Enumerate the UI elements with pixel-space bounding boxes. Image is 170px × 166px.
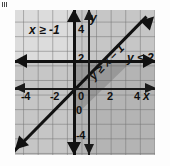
y-tick-neg2: 0 xyxy=(76,105,82,116)
origin-label: 0 xyxy=(78,91,84,102)
coordinate-plane: -4 -2 0 2 4 4 2 0 -4 x y x ≥ -1 y ≤ 2 y … xyxy=(15,10,155,155)
y-tick-neg4: -4 xyxy=(76,130,85,141)
y-tick-4: 4 xyxy=(78,24,84,35)
arrow-up-x-equals-neg1-icon xyxy=(67,10,81,22)
arrow-down-x-equals-neg1-icon xyxy=(67,142,81,155)
x-tick-neg2: -2 xyxy=(50,91,59,102)
y-tick-2: 2 xyxy=(78,53,84,64)
label-x-ge-neg1: x ≥ -1 xyxy=(29,24,60,36)
label-y-le-2: y ≤ 2 xyxy=(127,52,154,64)
x-tick-4: 4 xyxy=(134,91,140,102)
y-axis xyxy=(88,10,90,155)
arrow-down-y-axis-icon xyxy=(84,144,94,155)
x-tick-2: 2 xyxy=(107,91,113,102)
scan-artifact xyxy=(2,2,7,7)
y-axis-label: y xyxy=(90,12,97,24)
inequality-graph-figure: -4 -2 0 2 4 4 2 0 -4 x y x ≥ -1 y ≤ 2 y … xyxy=(0,0,170,166)
x-tick-neg4: -4 xyxy=(21,91,30,102)
arrow-left-y-equals-2-icon xyxy=(15,54,27,68)
x-axis-label: x xyxy=(143,90,150,102)
